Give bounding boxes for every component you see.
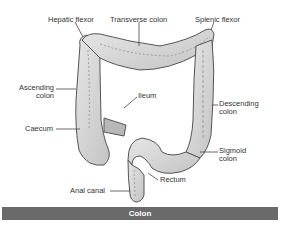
label-ileum: Ileum [138, 92, 156, 100]
rectum-shape [128, 160, 144, 202]
colon-illustration [0, 0, 285, 232]
diagram-caption: Colon [2, 207, 278, 220]
label-ascending-colon: Ascending colon [6, 84, 54, 100]
label-descending-colon-line2: colon [219, 108, 259, 116]
label-sigmoid-colon-line2: colon [219, 155, 246, 163]
transverse-colon-shape [82, 29, 214, 70]
label-anal-canal: Anal canal [70, 187, 105, 195]
label-caecum: Caecum [25, 125, 53, 133]
label-rectum: Rectum [160, 176, 186, 184]
label-hepatic-flexor: Hepatic flexor [48, 16, 94, 24]
label-ascending-colon-line2: colon [6, 92, 54, 100]
label-sigmoid-colon: Sigmoid colon [219, 147, 246, 163]
label-splenic-flexor: Splenic flexor [195, 16, 240, 24]
label-transverse-colon: Transverse colon [110, 16, 167, 24]
label-descending-colon: Descending colon [219, 100, 259, 116]
ileum-shape [104, 118, 126, 136]
